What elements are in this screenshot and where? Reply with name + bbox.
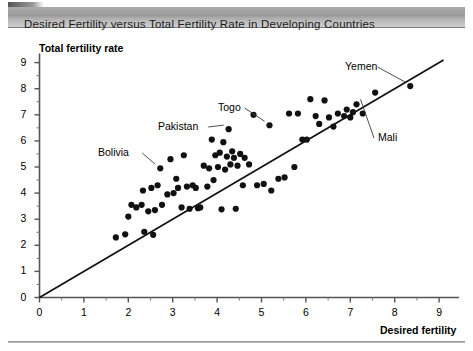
y-tick-label: 2 [16,238,32,250]
y-tick-label: 1 [16,264,32,276]
x-tick-label: 9 [431,306,447,318]
annotation-label-yemen: Yemen [345,60,377,72]
data-point [175,185,181,191]
y-tick-label: 7 [16,108,32,120]
data-point [313,113,319,119]
plot-area: Total fertility rate Desired fertility 0… [0,0,473,351]
data-point [226,126,232,132]
annotation-label-bolivia: Bolivia [98,146,129,158]
data-point [206,165,212,171]
x-tick-label: 1 [76,306,92,318]
data-point [113,234,119,240]
data-point [330,123,336,129]
chart-page: Desired Fertility versus Total Fertility… [0,0,473,351]
annotation-leader-lines [142,67,405,164]
data-point [164,191,170,197]
y-tick-label: 0 [16,291,32,303]
data-point [173,176,179,182]
data-point [167,156,173,162]
annotation-leader-yemen [378,67,406,82]
data-point [152,207,158,213]
data-point [234,163,240,169]
data-points-layer [113,83,414,241]
data-point [148,185,154,191]
equality-line-layer [40,60,444,298]
data-point [286,110,292,116]
data-point [231,155,237,161]
data-point [326,114,332,120]
x-tick-label: 8 [387,306,403,318]
x-tick-label: 0 [32,306,48,318]
axis-layer [35,53,460,302]
data-point [372,90,378,96]
data-point [122,231,128,237]
data-point [307,96,313,102]
y-tick-label: 9 [16,56,32,68]
data-point [233,206,239,212]
y-tick-label: 6 [16,134,32,146]
data-point [344,106,350,112]
annotation-leader-togo [245,108,265,121]
data-point [275,176,281,182]
data-point [155,182,161,188]
data-point [218,206,224,212]
data-point [197,204,203,210]
data-point [341,113,347,119]
data-point [295,110,301,116]
data-point [321,97,327,103]
y-tick-label: 8 [16,82,32,94]
data-point [181,152,187,158]
data-point [193,185,199,191]
data-point [266,122,272,128]
annotation-label-togo: Togo [218,101,241,113]
data-point [268,187,274,193]
data-point [246,161,252,167]
annotation-label-mali: Mali [378,131,397,143]
data-point [204,183,210,189]
data-point [178,204,184,210]
y-tick-label: 5 [16,160,32,172]
y-tick-label: 4 [16,186,32,198]
x-tick-label: 2 [120,306,136,318]
data-point [215,164,221,170]
data-point [222,167,228,173]
data-point [291,164,297,170]
equality-reference-line [40,60,444,298]
y-tick-label: 3 [16,212,32,224]
data-point [139,202,145,208]
x-tick-label: 5 [254,306,270,318]
data-point [224,153,230,159]
data-point [125,213,131,219]
data-point [201,163,207,169]
data-point [159,202,165,208]
data-point [145,208,151,214]
data-point [209,136,215,142]
data-point [133,204,139,210]
data-point [254,182,260,188]
data-point [210,177,216,183]
data-point [350,109,356,115]
data-point [335,110,341,116]
data-point [240,182,246,188]
data-point [304,136,310,142]
annotation-label-pakistan: Pakistan [158,120,198,132]
x-axis-label: Desired fertility [380,324,456,336]
x-tick-label: 4 [209,306,225,318]
annotation-leader-pakistan [208,125,223,127]
data-point [157,165,163,171]
x-tick-label: 3 [165,306,181,318]
data-point [186,206,192,212]
data-point [407,83,413,89]
data-point [170,190,176,196]
data-point [261,181,267,187]
data-point [242,155,248,161]
x-tick-label: 7 [342,306,358,318]
x-tick-label: 6 [298,306,314,318]
data-point [316,121,322,127]
data-point [150,232,156,238]
data-point [220,139,226,145]
data-point [281,174,287,180]
data-point [229,148,235,154]
data-point [184,183,190,189]
data-point [141,229,147,235]
